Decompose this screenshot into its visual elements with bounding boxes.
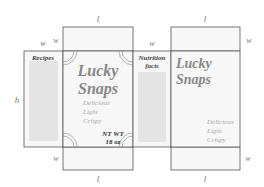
top-flap-back (171, 27, 240, 51)
front-brand-line1: Lucky (77, 62, 120, 80)
front-tagline-3: Crispy (83, 117, 103, 125)
back-brand-line2: Snaps (176, 72, 212, 87)
label-right-bottom-w: w (245, 154, 251, 163)
bottom-flap-front (63, 147, 133, 170)
label-left-bottom-w: w (53, 154, 59, 163)
recipes-heading: Recipes (31, 54, 54, 62)
nutrition-heading-2: facts (145, 62, 159, 70)
nutrition-text-lines (138, 73, 166, 141)
label-bottom-back-l: l (204, 174, 207, 184)
back-tagline-1: Delicious (206, 118, 234, 126)
label-height-h: h (15, 95, 20, 105)
front-brand-line2: Snaps (78, 80, 118, 98)
label-left-w-inner: w (53, 36, 59, 45)
label-nutrition-w: w (149, 39, 155, 48)
label-top-back-l: l (204, 14, 207, 24)
back-brand-line1: Lucky (175, 56, 213, 71)
front-net-weight-2: 18 oz (106, 138, 121, 146)
front-tagline-2: Light (82, 108, 99, 116)
front-tagline-1: Delicious (82, 99, 110, 107)
front-net-weight-1: NT WT (101, 130, 124, 138)
label-top-front-l: l (97, 14, 100, 24)
back-tagline-2: Light (206, 127, 223, 135)
bottom-flap-back (171, 147, 240, 170)
label-left-w-outer: w (40, 39, 46, 48)
panel-left-side (24, 51, 63, 147)
back-tagline-3: Crispy (207, 136, 227, 144)
nutrition-heading-1: Nutrition (138, 54, 166, 62)
box-net-diagram: l l w w w w h w w l l Recipes Lucky Snap… (0, 0, 264, 187)
label-bottom-front-l: l (97, 174, 100, 184)
top-flap-front (63, 27, 133, 51)
label-right-w-top: w (246, 36, 252, 45)
